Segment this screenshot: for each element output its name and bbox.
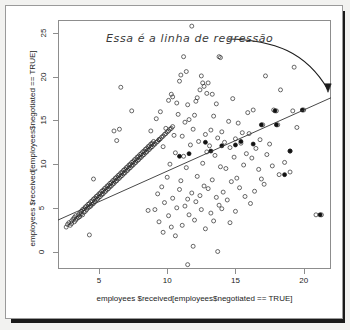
- x-tick: [167, 269, 168, 274]
- y-tick-label: 15: [39, 116, 48, 125]
- figure-sheet: 51015200510152025 Essa é a linha de regr…: [5, 5, 343, 319]
- plot-area: 51015200510152025 Essa é a linha de regr…: [6, 6, 342, 318]
- x-tick: [235, 269, 236, 274]
- plot-frame: [58, 20, 331, 269]
- x-tick: [99, 269, 100, 274]
- x-tick: [304, 269, 305, 274]
- x-tick-label: 20: [299, 276, 308, 285]
- y-tick: [53, 164, 58, 165]
- figure-page: 51015200510152025 Essa é a linha de regr…: [0, 0, 350, 330]
- regression-annotation: Essa é a linha de regressão: [106, 32, 273, 45]
- y-tick-label: 20: [39, 72, 48, 81]
- y-tick: [53, 33, 58, 34]
- y-tick-label: 0: [37, 249, 46, 253]
- y-tick: [53, 77, 58, 78]
- x-tick-label: 10: [163, 276, 172, 285]
- y-tick-label: 5: [37, 206, 46, 210]
- y-tick-label: 25: [39, 29, 48, 38]
- x-axis-label: employees $received[employees$negotiated…: [58, 294, 331, 303]
- x-tick-label: 5: [97, 276, 101, 285]
- x-tick-label: 15: [231, 276, 240, 285]
- y-tick: [53, 208, 58, 209]
- y-tick-label: 10: [39, 160, 48, 169]
- y-axis-label: employees $received[employees$negotiated…: [28, 19, 37, 279]
- y-tick: [53, 252, 58, 253]
- y-tick: [53, 120, 58, 121]
